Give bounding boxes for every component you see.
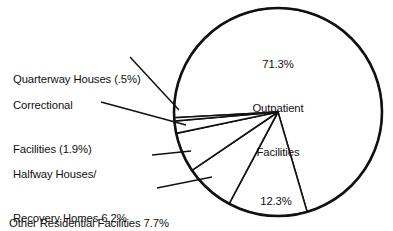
correctional-text-line1: Correctional xyxy=(13,98,92,113)
halfway-text-line1: Halfway Houses/ xyxy=(13,167,127,182)
outpatient-percent: 71.3% xyxy=(232,57,324,72)
slice-label-other-residential-facilities: Other Residential Facilities 7.7% xyxy=(9,187,169,231)
outpatient-name-line2: Facilities xyxy=(232,145,324,160)
hospitals-percent: 12.3% xyxy=(239,194,313,209)
slice-label-hospitals: 12.3% Hospitals xyxy=(239,165,313,231)
pie-chart-figure: 71.3% Outpatient Facilities 12.3% Hospit… xyxy=(0,0,393,231)
other-residential-text: Other Residential Facilities 7.7% xyxy=(9,216,169,231)
outpatient-name-line1: Outpatient xyxy=(232,101,324,116)
